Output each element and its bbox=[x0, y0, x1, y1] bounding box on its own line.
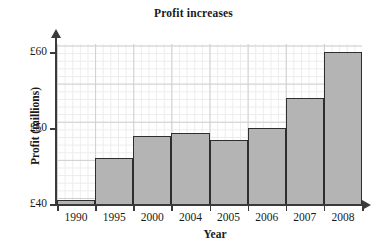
bar-2006 bbox=[248, 128, 286, 205]
chart-title: Profit increases bbox=[0, 7, 387, 19]
x-tick-2004 bbox=[171, 204, 173, 211]
x-tick-label-2004: 2004 bbox=[171, 211, 209, 223]
y-tick-label-50: £50 bbox=[1, 121, 47, 133]
x-axis-title: Year bbox=[55, 228, 375, 240]
y-tick-label-60: £60 bbox=[1, 45, 47, 57]
bar-2007 bbox=[286, 98, 324, 205]
x-tick-2007 bbox=[286, 204, 288, 211]
x-tick-label-2007: 2007 bbox=[286, 211, 324, 223]
y-axis-arrow-icon bbox=[51, 29, 61, 38]
x-tick-label-1990: 1990 bbox=[57, 211, 95, 223]
x-tick-2000 bbox=[133, 204, 135, 211]
bar-2008 bbox=[324, 52, 362, 205]
y-tick-60 bbox=[50, 52, 57, 54]
y-tick-label-40: £40 bbox=[1, 197, 47, 209]
y-tick-40 bbox=[50, 204, 57, 206]
x-tick-label-1995: 1995 bbox=[95, 211, 133, 223]
x-tick-1995 bbox=[95, 204, 97, 211]
y-axis-line bbox=[55, 36, 57, 206]
bar-2000 bbox=[133, 136, 171, 205]
x-tick-1990 bbox=[57, 204, 59, 211]
x-tick-2005 bbox=[210, 204, 212, 211]
bar-2004 bbox=[171, 133, 209, 205]
x-tick-2008 bbox=[324, 204, 326, 211]
bar-2005 bbox=[210, 140, 248, 205]
x-tick-end bbox=[362, 204, 364, 211]
bar-1995 bbox=[95, 158, 133, 205]
bar-chart: Profit increases Profit (millions) Year … bbox=[0, 0, 387, 249]
y-tick-50 bbox=[50, 128, 57, 130]
x-tick-label-2008: 2008 bbox=[324, 211, 362, 223]
x-tick-label-2006: 2006 bbox=[248, 211, 286, 223]
x-tick-label-2005: 2005 bbox=[210, 211, 248, 223]
plot-area bbox=[57, 44, 362, 205]
x-tick-2006 bbox=[248, 204, 250, 211]
x-tick-label-2000: 2000 bbox=[133, 211, 171, 223]
